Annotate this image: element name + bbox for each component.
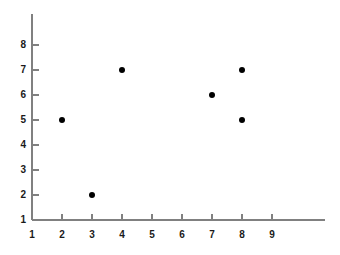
scatter-plot-figure: 123456789 12345678: [0, 0, 340, 255]
plot-canvas: [0, 0, 340, 255]
y-axis-tick-label: 7: [14, 65, 26, 75]
data-point: [209, 92, 215, 98]
data-points-group: [59, 67, 245, 198]
data-point: [59, 117, 65, 123]
y-axis-tick-label: 8: [14, 40, 26, 50]
x-axis-tick-label: 5: [149, 230, 155, 240]
axes-group: [32, 14, 325, 220]
x-axis-tick-label: 4: [119, 230, 125, 240]
y-axis-tick-label: 6: [14, 90, 26, 100]
data-point: [239, 67, 245, 73]
data-point: [119, 67, 125, 73]
y-axis-tick-label: 4: [14, 140, 26, 150]
data-point: [239, 117, 245, 123]
x-axis-tick-label: 9: [269, 230, 275, 240]
x-axis-tick-label: 7: [209, 230, 215, 240]
tick-marks-group: [32, 45, 272, 220]
x-axis-tick-label: 3: [89, 230, 95, 240]
y-axis-tick-label: 5: [14, 115, 26, 125]
x-axis-tick-label: 8: [239, 230, 245, 240]
x-axis-tick-label: 1: [29, 230, 35, 240]
y-axis-tick-label: 3: [14, 165, 26, 175]
data-point: [89, 192, 95, 198]
x-axis-tick-label: 6: [179, 230, 185, 240]
y-axis-tick-label: 2: [14, 190, 26, 200]
x-axis-tick-label: 2: [59, 230, 65, 240]
y-axis-tick-label: 1: [14, 215, 26, 225]
